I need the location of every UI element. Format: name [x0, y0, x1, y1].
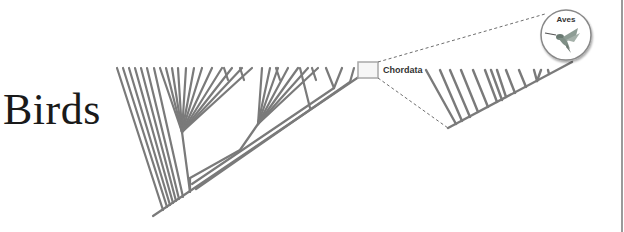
aves-label: Aves [557, 15, 576, 24]
zoomed-tree [426, 62, 572, 128]
large-tree [117, 68, 372, 216]
right-border [621, 0, 623, 232]
tree-diagram: Chordata Aves [0, 0, 624, 232]
chordata-zoom-box [358, 62, 378, 78]
chordata-label: Chordata [383, 65, 423, 75]
